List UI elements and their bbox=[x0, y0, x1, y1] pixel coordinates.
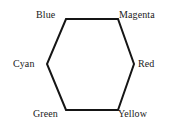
vertex-label-magenta: Magenta bbox=[119, 9, 155, 20]
hexagon-outline bbox=[47, 19, 134, 110]
vertex-label-green: Green bbox=[33, 108, 58, 119]
vertex-label-blue: Blue bbox=[36, 9, 55, 20]
color-hexagon-diagram: Blue Magenta Red Yellow Green Cyan bbox=[0, 0, 180, 129]
vertex-label-red: Red bbox=[138, 58, 154, 69]
vertex-label-cyan: Cyan bbox=[13, 58, 35, 69]
vertex-label-yellow: Yellow bbox=[118, 108, 147, 119]
